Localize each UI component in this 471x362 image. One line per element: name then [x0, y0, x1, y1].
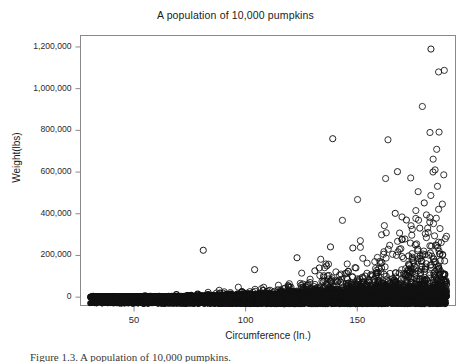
y-tick-label: 600,000: [0, 166, 72, 176]
figure-container: A population of 10,000 pumpkins Weight(l…: [0, 0, 471, 362]
y-tick-label: 800,000: [0, 124, 72, 134]
plot-frame: [81, 36, 456, 306]
y-tick-label: 200,000: [0, 249, 72, 259]
x-tick-label: 100: [221, 314, 271, 325]
x-tick-label: 50: [109, 314, 159, 325]
y-tick-label: 1,000,000: [0, 83, 72, 93]
y-tick-label: 1,200,000: [0, 41, 72, 51]
y-tick-label: 400,000: [0, 208, 72, 218]
scatter-plot: [0, 0, 471, 362]
y-tick-label: 0: [0, 291, 72, 301]
figure-caption: Figure 1.3. A population of 10,000 pumpk…: [30, 351, 460, 362]
y-axis-ticks: [76, 47, 81, 297]
x-tick-label: 150: [332, 314, 382, 325]
